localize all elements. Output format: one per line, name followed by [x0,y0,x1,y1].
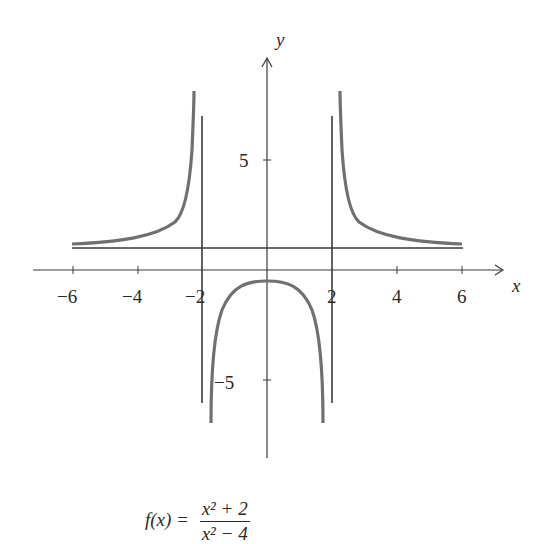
curve-right-branch [340,91,462,244]
y-axis-label: y [274,29,285,50]
curve-left-branch [72,91,194,244]
function-formula: f(x) = x² + 2 x² − 4 [145,498,250,544]
formula-denominator: x² − 4 [200,522,250,544]
y-tick-label-5: 5 [239,150,249,171]
x-axis-label: x [511,275,521,296]
formula-fraction: x² + 2 x² − 4 [200,498,250,544]
y-tick-label-neg5: −5 [214,372,234,393]
formula-lhs: f(x) = [145,509,189,530]
x-tick-label-6: 6 [457,286,467,307]
x-tick-label-2: 2 [327,286,337,307]
x-tick-label-4: 4 [392,286,402,307]
x-tick-label-neg2: −2 [185,286,205,307]
x-tick-label-neg6: −6 [57,286,77,307]
x-tick-label-neg4: −4 [122,286,143,307]
formula-numerator: x² + 2 [200,498,250,522]
